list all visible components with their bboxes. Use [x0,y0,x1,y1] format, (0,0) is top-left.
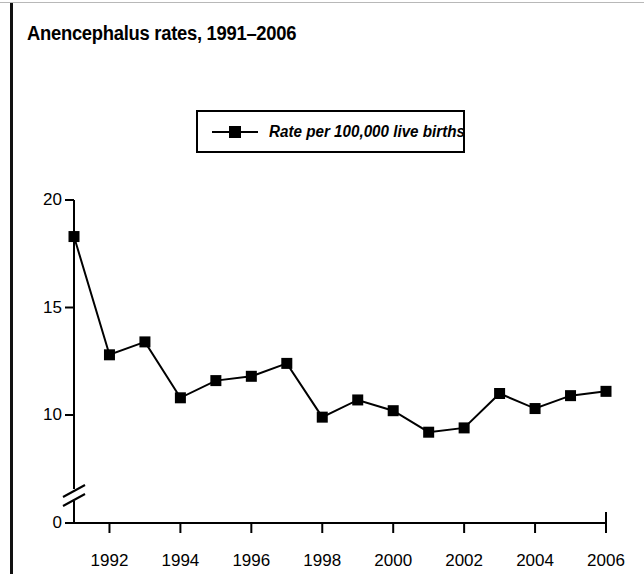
data-point-1999 [352,394,363,405]
line-chart [0,0,644,574]
data-point-1992 [104,349,115,360]
data-point-1997 [281,358,292,369]
x-tick-label-2000: 2000 [374,551,412,571]
chart-axes [63,200,606,533]
x-tick-label-2006: 2006 [587,551,625,571]
x-tick-label-2004: 2004 [516,551,554,571]
data-point-1994 [175,392,186,403]
data-point-2000 [388,405,399,416]
x-tick-label-1992: 1992 [91,551,129,571]
y-tick-label-15: 15 [18,298,62,318]
data-point-2003 [494,388,505,399]
series-line-0 [74,237,606,433]
data-point-1991 [69,231,80,242]
x-tick-label-1996: 1996 [232,551,270,571]
data-point-2002 [459,422,470,433]
y-tick-label-10: 10 [18,405,62,425]
x-tick-label-1994: 1994 [161,551,199,571]
data-point-1993 [139,336,150,347]
x-tick-label-1998: 1998 [303,551,341,571]
figure-panel: Anencephalus rates, 1991–2006 Rate per 1… [0,0,644,574]
data-point-2004 [530,403,541,414]
y-tick-label-20: 20 [18,190,62,210]
data-point-1996 [246,371,257,382]
y-tick-label-0: 0 [18,513,62,533]
data-point-2006 [601,386,612,397]
x-tick-label-2002: 2002 [445,551,483,571]
data-point-1995 [210,375,221,386]
data-point-2005 [565,390,576,401]
data-point-2001 [423,427,434,438]
chart-series [69,231,612,438]
data-point-1998 [317,412,328,423]
